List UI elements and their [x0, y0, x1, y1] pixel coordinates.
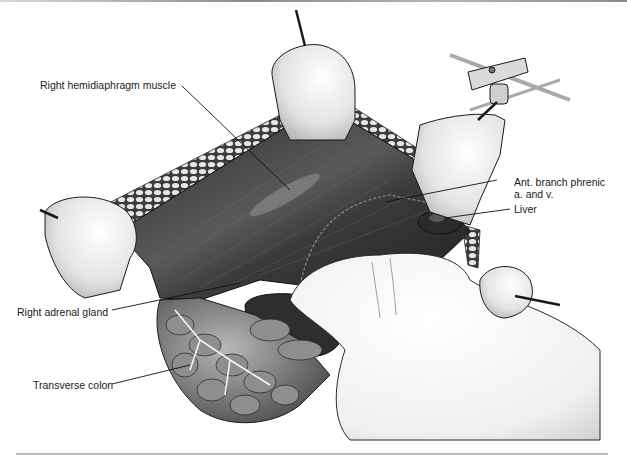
retractor-left — [45, 197, 136, 298]
label-ant-branch-phrenic-line2: a. and v. — [514, 188, 605, 200]
label-liver: Liver — [514, 203, 537, 215]
label-ant-branch-phrenic-line1: Ant. branch phrenic — [514, 176, 605, 188]
bottom-border-rule — [16, 453, 608, 455]
label-ant-branch-phrenic: Ant. branch phrenic a. and v. — [514, 176, 605, 200]
surgical-illustration — [0, 0, 627, 463]
label-transverse-colon: Transverse colon — [33, 379, 113, 391]
retractor-top — [272, 45, 355, 140]
label-right-adrenal-gland: Right adrenal gland — [17, 306, 108, 318]
retractor-clamp — [450, 55, 570, 120]
label-right-hemidiaphragm-muscle: Right hemidiaphragm muscle — [40, 79, 176, 91]
